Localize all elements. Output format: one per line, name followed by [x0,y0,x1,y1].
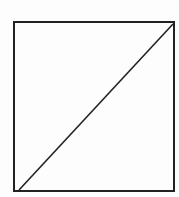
diagram-canvas [0,0,179,197]
square-with-diagonal-figure [0,0,179,197]
square-outline [14,22,174,191]
diagonal-line [19,24,173,190]
